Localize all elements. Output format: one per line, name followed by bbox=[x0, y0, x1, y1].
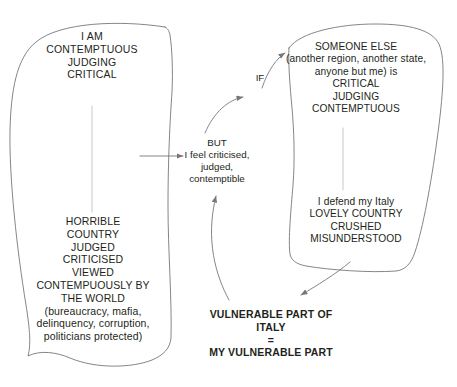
node-defend-italy: I defend my Italy LOVELY COUNTRY CRUSHED… bbox=[276, 196, 436, 246]
node-self-critical: I AM CONTEMPTUOUS JUDGING CRITICAL bbox=[14, 30, 170, 81]
node-someone-else: SOMEONE ELSE (another region, another st… bbox=[262, 41, 450, 116]
node-horrible-country: HORRIBLE COUNTRY JUDGED CRITICISED VIEWE… bbox=[6, 215, 180, 343]
arrow-right-bubble-to-conclusion bbox=[301, 262, 350, 295]
arrow-but-to-if bbox=[205, 97, 243, 133]
node-but-block: BUT I feel criticised, judged, contempti… bbox=[172, 137, 262, 185]
arrow-conclusion-to-but bbox=[211, 196, 229, 300]
node-conclusion: VULNERABLE PART OF ITALY = MY VULNERABLE… bbox=[185, 308, 357, 359]
diagram-canvas: I AM CONTEMPTUOUS JUDGING CRITICAL HORRI… bbox=[0, 0, 457, 387]
